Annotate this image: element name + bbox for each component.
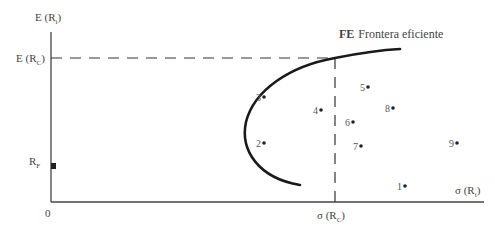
origin-label: 0: [45, 207, 51, 219]
efficient-frontier-curve: [245, 49, 400, 185]
data-point: [262, 141, 266, 145]
point-label: 7: [353, 141, 358, 152]
data-point: [262, 95, 266, 99]
point-label: 6: [345, 117, 350, 128]
point-label: 4: [313, 105, 318, 116]
point-label: 1: [397, 181, 402, 192]
erc-label: E (RC): [16, 52, 45, 67]
point-label: 5: [360, 82, 365, 93]
efficient-frontier-chart: E (Ri) E (RC) RF 0 σ (RC) σ (Ri) FEFront…: [0, 0, 495, 234]
risk-free-marker: [51, 163, 56, 169]
data-point: [351, 120, 355, 124]
point-label: 2: [256, 138, 261, 149]
data-point: [366, 85, 370, 89]
data-point: [403, 184, 407, 188]
x-axis-label: σ (Ri): [455, 184, 481, 199]
src-label: σ (RC): [317, 209, 345, 224]
point-label: 3: [256, 92, 261, 103]
data-point: [319, 108, 323, 112]
frontier-title: FEFrontera eficiente: [339, 27, 443, 41]
data-point: [391, 106, 395, 110]
point-label: 9: [449, 138, 454, 149]
data-point: [455, 141, 459, 145]
asset-points: 123456789: [256, 82, 459, 192]
point-label: 8: [385, 103, 390, 114]
rf-label: RF: [29, 155, 40, 170]
data-point: [359, 144, 363, 148]
y-axis-label: E (Ri): [35, 11, 61, 26]
